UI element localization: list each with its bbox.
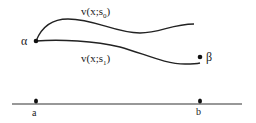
alpha-point [34, 39, 39, 44]
beta-label: β [206, 51, 212, 63]
curve-s1-label-close: ) [107, 52, 111, 64]
point-b [198, 98, 202, 103]
curve-s0-label-text: v(x;s [81, 5, 103, 17]
curve-s0-label: v(x;s0) [81, 6, 110, 20]
diagram-canvas [0, 0, 256, 123]
curve-s1-label-text: v(x;s [81, 52, 103, 64]
curve-s1-label: v(x;s1) [81, 53, 110, 67]
point-a [34, 98, 38, 103]
beta-point [198, 55, 203, 60]
a-label: a [32, 108, 36, 118]
curve-s0-label-close: ) [107, 5, 111, 17]
alpha-label: α [21, 35, 27, 47]
curve-v-s1 [36, 40, 200, 64]
curve-v-s0 [36, 19, 194, 41]
b-label: b [196, 107, 201, 117]
